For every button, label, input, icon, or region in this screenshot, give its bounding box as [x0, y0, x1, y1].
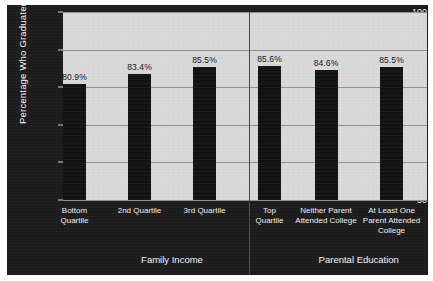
bar-texture — [63, 84, 86, 200]
chart-figure: Percentage Who Graduated 1009080706050 8… — [0, 0, 433, 281]
category-label-line: Neither Parent — [295, 206, 356, 216]
category-label-line: Parent Attended — [363, 216, 420, 226]
gridline — [63, 50, 427, 51]
category-label: 3rd Quartile — [184, 206, 226, 216]
gridline — [63, 162, 427, 163]
bar — [63, 84, 86, 200]
group-label: Family Income — [141, 254, 203, 265]
bar — [128, 74, 151, 200]
category-label: TopQuartile — [255, 206, 283, 226]
bar-texture — [380, 67, 403, 200]
bar-value-label: 80.9% — [62, 72, 87, 82]
plot-texture — [63, 12, 427, 200]
bar-texture — [258, 66, 281, 200]
category-label: BottomQuartile — [60, 206, 88, 226]
bar — [380, 67, 403, 200]
bar-texture — [193, 67, 216, 200]
category-label: 2nd Quartile — [118, 206, 162, 216]
bar-value-label: 85.5% — [192, 55, 217, 65]
bar — [315, 70, 338, 200]
group-divider — [249, 12, 250, 274]
category-label-line: Top — [255, 206, 283, 216]
bar — [193, 67, 216, 200]
bar-value-label: 84.6% — [314, 58, 339, 68]
chart-frame: Percentage Who Graduated 1009080706050 8… — [8, 6, 427, 274]
category-label: Neither ParentAttended College — [295, 206, 356, 226]
category-label-line: Attended College — [295, 216, 356, 226]
gridline — [63, 125, 427, 126]
category-label-line: College — [363, 226, 420, 236]
bar-texture — [128, 74, 151, 200]
category-label-line: 3rd Quartile — [184, 206, 226, 216]
bar-value-label: 85.6% — [257, 54, 282, 64]
category-label-line: Quartile — [60, 216, 88, 226]
bar-texture — [315, 70, 338, 200]
bar-value-label: 85.5% — [379, 55, 404, 65]
category-label-line: 2nd Quartile — [118, 206, 162, 216]
gridline — [63, 12, 427, 13]
category-label-line: Bottom — [60, 206, 88, 216]
y-axis-label: Percentage Who Graduated — [17, 1, 28, 124]
category-label-line: Quartile — [255, 216, 283, 226]
bar-value-label: 83.4% — [127, 62, 152, 72]
gridline — [63, 200, 427, 201]
category-label-line: At Least One — [363, 206, 420, 216]
bar — [258, 66, 281, 200]
plot-area — [63, 12, 427, 200]
group-label: Parental Education — [319, 254, 399, 265]
category-label: At Least OneParent AttendedCollege — [363, 206, 420, 236]
gridline — [63, 87, 427, 88]
